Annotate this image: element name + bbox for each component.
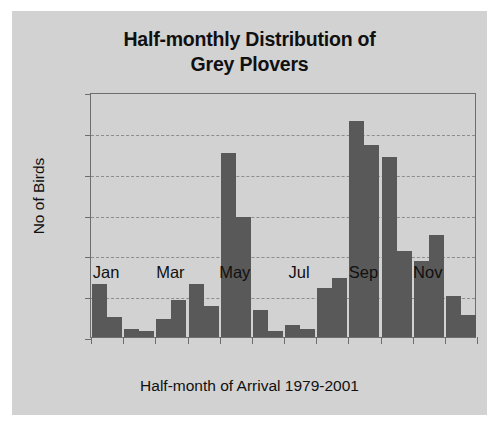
x-tick-mark (188, 337, 189, 344)
x-tick-mark (477, 337, 478, 344)
x-tick-label: May (200, 263, 270, 282)
x-tick-label: Jan (71, 263, 141, 282)
bar (364, 145, 379, 337)
bar (300, 329, 315, 337)
chart-title-line-1: Half-monthly Distribution of (12, 27, 487, 52)
chart-title: Half-monthly Distribution of Grey Plover… (12, 27, 487, 77)
x-tick-label: Sep (328, 263, 398, 282)
x-tick-label: Nov (393, 263, 463, 282)
y-tick-mark (85, 257, 91, 258)
x-tick-label: Jul (264, 263, 334, 282)
chart-title-line-2: Grey Plovers (12, 52, 487, 77)
bar (221, 153, 236, 337)
x-tick-mark (123, 337, 124, 344)
x-tick-mark (284, 337, 285, 344)
bar (382, 157, 397, 337)
y-axis-label: No of Birds (30, 116, 48, 276)
bar (446, 296, 461, 337)
gridline (91, 257, 475, 258)
bar (107, 317, 122, 337)
x-axis-label: Half-month of Arrival 1979-2001 (12, 377, 487, 395)
x-tick-mark (220, 337, 221, 344)
bar (253, 310, 268, 337)
bar (171, 300, 186, 337)
bar (332, 278, 347, 337)
bar (92, 284, 107, 337)
bar (189, 284, 204, 337)
x-tick-mark (381, 337, 382, 344)
x-tick-mark (348, 337, 349, 344)
bar (268, 331, 283, 337)
bar (204, 306, 219, 337)
gridline (91, 217, 475, 218)
y-tick-mark (85, 217, 91, 218)
y-tick-mark (85, 176, 91, 177)
y-tick-mark (85, 135, 91, 136)
x-tick-mark (316, 337, 317, 344)
bar (156, 319, 171, 337)
bar (285, 325, 300, 337)
y-tick-mark (85, 94, 91, 95)
gridline (91, 135, 475, 136)
plot-area: 020406080100120 (90, 93, 476, 338)
x-tick-mark (155, 337, 156, 344)
x-tick-mark (91, 337, 92, 344)
bar (429, 235, 444, 337)
x-tick-mark (252, 337, 253, 344)
gridline (91, 176, 475, 177)
x-tick-mark (445, 337, 446, 344)
x-tick-label: Mar (135, 263, 205, 282)
bar (139, 331, 154, 337)
x-tick-mark (413, 337, 414, 344)
bar (317, 288, 332, 337)
bar (124, 329, 139, 337)
bar (461, 315, 476, 337)
y-tick-mark (85, 298, 91, 299)
bar (349, 121, 364, 337)
chart-figure: Half-monthly Distribution of Grey Plover… (12, 11, 487, 415)
